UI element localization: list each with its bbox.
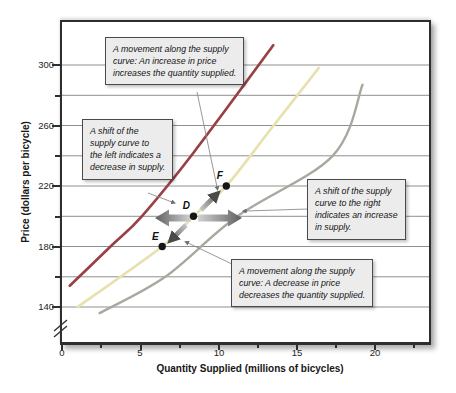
point-D	[190, 213, 197, 220]
y-tick-220	[52, 185, 60, 187]
y-tick-300	[52, 64, 60, 66]
point-label-D: D	[183, 200, 190, 211]
y-minor-tick-240	[55, 155, 60, 157]
point-label-F: F	[217, 170, 224, 181]
y-tick-label-300: 300	[22, 59, 54, 70]
x-tick-10	[218, 344, 220, 350]
y-axis-break-icon	[52, 314, 70, 340]
point-label-E: E	[152, 231, 159, 242]
x-minor-tick-12.5	[257, 344, 259, 348]
shift-and-movement-arrows	[155, 198, 242, 236]
x-axis-title: Quantity Supplied (millions of bicycles)	[156, 363, 343, 374]
x-minor-tick-17.5	[335, 344, 337, 348]
callout-movement-increase: A movement along the supply curve: An in…	[105, 37, 244, 85]
x-tick-20	[374, 344, 376, 350]
y-tick-label-260: 260	[22, 120, 54, 131]
x-tick-0	[61, 344, 63, 350]
leader-movement-increase	[197, 92, 217, 187]
callout-movement-decrease: A movement along the supply curve: A dec…	[231, 259, 373, 307]
y-tick-260	[52, 125, 60, 127]
labeled-points: DEF	[152, 170, 230, 250]
y-minor-tick-200	[55, 216, 60, 218]
callout-shift-left: A shift of the supply curve to the left …	[82, 119, 173, 180]
leader-shift-right	[246, 209, 308, 211]
x-minor-tick-7.5	[179, 344, 181, 348]
y-tick-180	[52, 246, 60, 248]
shift-right-arrow-icon	[198, 210, 242, 227]
callout-shift-right: A shift of the supply curve to the right…	[307, 179, 406, 240]
x-tick-5	[140, 344, 142, 350]
y-minor-tick-280	[55, 95, 60, 97]
y-tick-label-140: 140	[22, 301, 54, 312]
point-E	[159, 243, 166, 250]
x-minor-tick-2.5	[100, 344, 102, 348]
movement-up-arrow-icon	[201, 198, 213, 210]
point-F	[223, 182, 230, 189]
y-tick-label-220: 220	[22, 180, 54, 191]
y-minor-tick-160	[55, 276, 60, 278]
x-tick-15	[296, 344, 298, 350]
y-tick-label-180: 180	[22, 241, 54, 252]
x-minor-tick-22.5	[413, 344, 415, 348]
movement-down-arrow-icon	[175, 225, 186, 236]
y-tick-140	[52, 306, 60, 308]
figure: Price (dollars per bicycle)	[0, 0, 456, 393]
